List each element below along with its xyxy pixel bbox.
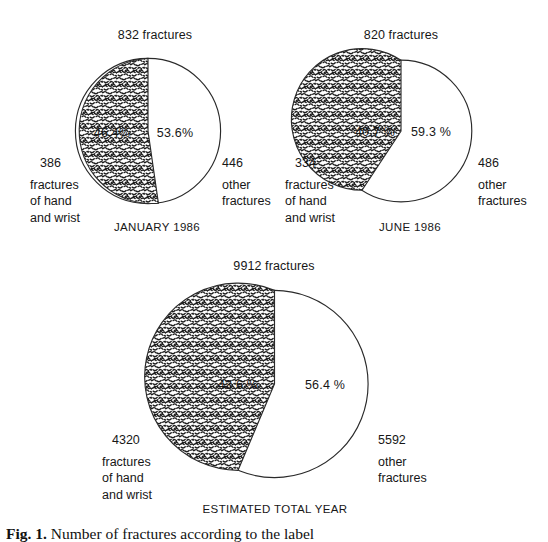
pie-graphic <box>330 59 473 204</box>
pie-slice-percent-hand: 46.4% <box>94 126 130 141</box>
pie-slice-percent-other: 53.6% <box>157 126 193 141</box>
pie-label-hand-count: 4320 <box>112 432 152 449</box>
pie-label-other-desc-2: fractures <box>222 193 271 210</box>
pie-label-hand-desc-3: and wrist <box>30 210 80 227</box>
pie-chart-estimated-total-year: 9912 fractures 43.6 % 56.4 % 4320 fractu… <box>60 255 490 525</box>
chart-total-label: 832 fractures <box>118 28 192 43</box>
pie-slice-percent-hand: 43.6 % <box>218 378 258 393</box>
figure-caption-text: Number of fractures according to the lab… <box>51 525 314 542</box>
pie-label-hand-desc-2: of hand <box>102 470 152 487</box>
chart-period-label: JANUARY 1986 <box>114 221 200 235</box>
pie-label-hand-wrist: 334 fractures of hand and wrist <box>285 155 335 227</box>
pie-label-hand-desc-3: and wrist <box>102 487 152 504</box>
chart-total-label: 820 fractures <box>364 28 438 43</box>
pie-label-hand-wrist: 386 fractures of hand and wrist <box>30 155 80 227</box>
pie-label-hand-desc-1: fractures <box>30 177 80 194</box>
pie-slice-percent-hand: 40.7 % <box>355 125 395 140</box>
pie-label-other: 5592 other fractures <box>378 432 427 487</box>
pie-label-hand-desc-2: of hand <box>285 193 335 210</box>
pie-chart-june: 820 fractures 40.7 % 59.3 % 334 fracture… <box>274 0 548 245</box>
figure-caption: Fig. 1. Number of fractures according to… <box>6 524 542 542</box>
pie-label-other-desc-1: other <box>478 177 527 194</box>
pie-label-hand-count: 334 <box>295 155 335 172</box>
pie-label-other-count: 5592 <box>378 432 427 449</box>
pie-label-other: 446 other fractures <box>222 155 271 210</box>
pie-label-hand-desc-3: and wrist <box>285 210 335 227</box>
pie-chart-january: 832 fractures 46.4% 53.6% 386 fractures … <box>0 0 320 245</box>
pie-slice-percent-other: 59.3 % <box>411 125 451 140</box>
pie-label-other: 486 other fractures <box>478 155 527 210</box>
pie-label-other-desc-2: fractures <box>378 470 427 487</box>
pie-label-hand-desc-1: fractures <box>102 454 152 471</box>
pie-label-hand-wrist: 4320 fractures of hand and wrist <box>102 432 152 504</box>
pie-label-other-desc-1: other <box>222 177 271 194</box>
pie-label-other-desc-2: fractures <box>478 193 527 210</box>
chart-period-label: ESTIMATED TOTAL YEAR <box>203 503 348 517</box>
figure-caption-label: Fig. 1. <box>6 525 47 542</box>
pie-label-hand-desc-1: fractures <box>285 177 335 194</box>
pie-label-hand-count: 386 <box>40 155 80 172</box>
pie-label-hand-desc-2: of hand <box>30 193 80 210</box>
chart-period-label: JUNE 1986 <box>379 221 441 235</box>
chart-total-label: 9912 fractures <box>233 259 314 274</box>
figure-panel: 832 fractures 46.4% 53.6% 386 fractures … <box>0 0 548 542</box>
pie-label-other-count: 446 <box>222 155 271 172</box>
pie-label-other-desc-1: other <box>378 454 427 471</box>
pie-slice-percent-other: 56.4 % <box>305 378 345 393</box>
pie-label-other-count: 486 <box>478 155 527 172</box>
